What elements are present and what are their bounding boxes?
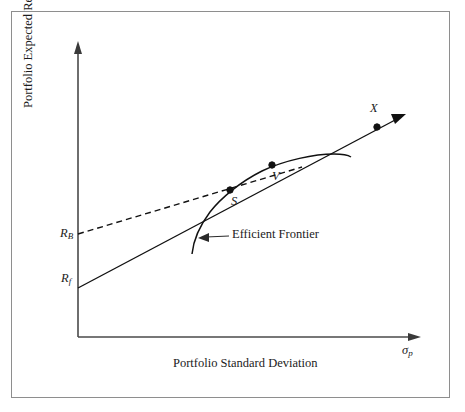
rf-symbol: R	[61, 271, 69, 285]
data-point-label-x: X	[370, 102, 378, 115]
x-axis-arrowhead	[408, 333, 421, 341]
data-point-x	[374, 124, 380, 130]
rb-subscript: B	[68, 231, 74, 241]
sigma-subscript: p	[408, 348, 413, 358]
x-axis-title: Portfolio Standard Deviation	[173, 357, 317, 370]
y-tick-label-risk-free-rate: Rf	[61, 272, 71, 286]
efficient-frontier-callout-arrowhead	[198, 233, 209, 242]
capital-market-line	[78, 119, 397, 288]
rb-symbol: R	[60, 226, 68, 240]
y-tick-label-borrowing-rate: RB	[60, 227, 73, 241]
efficient-frontier-callout-line	[206, 236, 229, 237]
x-axis-symbol-label: σp	[402, 344, 413, 358]
borrowing-line	[78, 167, 302, 234]
y-axis-title: Portfolio Expected Return E(Rp)	[22, 0, 36, 108]
data-point-s	[227, 187, 233, 193]
capital-market-line-arrowhead	[391, 114, 406, 124]
efficient-frontier-annotation-label: Efficient Frontier	[232, 228, 319, 241]
y-axis-arrowhead	[74, 41, 82, 54]
data-point-v	[269, 162, 275, 168]
rf-subscript: f	[69, 276, 72, 286]
data-point-label-s: S	[231, 195, 237, 208]
y-axis-title-text: Portfolio Expected Return	[21, 0, 35, 108]
data-point-label-v: V	[272, 170, 280, 183]
